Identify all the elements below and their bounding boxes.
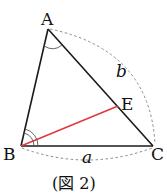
vertex-label-A: A: [40, 9, 54, 29]
dashed-arc-b: [50, 29, 155, 144]
side-label-a: a: [82, 147, 92, 167]
vertex-label-C: C: [151, 144, 164, 164]
side-AB: [21, 29, 48, 146]
vertex-label-B: B: [3, 144, 16, 164]
vertex-label-E: E: [121, 94, 133, 114]
segment-BE: [21, 106, 118, 146]
side-label-b: b: [116, 61, 127, 81]
triangle-diagram: A B C E b a (図 2): [0, 0, 167, 196]
angle-mark-A: [44, 45, 62, 49]
figure-caption: (図 2): [52, 174, 96, 193]
